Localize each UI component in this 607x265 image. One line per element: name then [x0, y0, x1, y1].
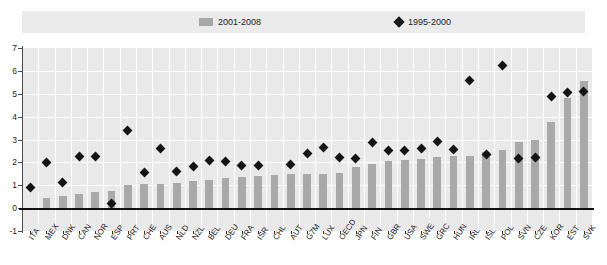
bar	[319, 174, 327, 208]
gridline-vertical	[87, 48, 88, 231]
y-axis-tick-label: 6	[0, 67, 17, 76]
gridline-vertical	[494, 48, 495, 231]
y-axis-tick	[18, 94, 22, 95]
bar	[222, 178, 230, 208]
y-axis-tick	[18, 48, 22, 49]
bar	[124, 185, 132, 208]
zero-baseline	[19, 208, 594, 210]
gridline-vertical	[413, 48, 414, 231]
y-axis-tick	[18, 185, 22, 186]
y-axis-tick	[18, 140, 22, 141]
y-axis-tick	[18, 162, 22, 163]
bar	[401, 160, 409, 208]
legend-entry-bar: 2001-2008	[199, 18, 261, 27]
bar	[499, 150, 507, 208]
gridline-vertical	[397, 48, 398, 231]
gridline-vertical	[527, 48, 528, 231]
gridline-vertical	[136, 48, 137, 231]
gridline-vertical	[103, 48, 104, 231]
y-axis-tick-label: 5	[0, 90, 17, 99]
gridline-vertical	[478, 48, 479, 231]
bar	[547, 122, 555, 208]
legend-entry-diamond: 1995-2000	[395, 18, 451, 27]
gridline-vertical	[71, 48, 72, 231]
gridline-vertical	[283, 48, 284, 231]
y-axis-tick	[18, 117, 22, 118]
bar	[75, 194, 83, 208]
gridline-vertical	[169, 48, 170, 231]
gridline-horizontal	[22, 162, 592, 163]
gridline-vertical	[348, 48, 349, 231]
bar-swatch-icon	[199, 18, 213, 26]
gridline-vertical	[380, 48, 381, 231]
gridline-horizontal	[22, 71, 592, 72]
y-axis-line	[22, 46, 23, 233]
bar	[287, 174, 295, 208]
bar	[254, 176, 262, 208]
bar	[303, 174, 311, 208]
gridline-vertical	[185, 48, 186, 231]
gridline-horizontal	[22, 117, 592, 118]
diamond-icon	[393, 16, 404, 27]
bar	[564, 98, 572, 208]
bar	[205, 180, 213, 209]
bar	[580, 81, 588, 208]
y-axis-tick-label: 7	[0, 44, 17, 53]
gridline-vertical	[152, 48, 153, 231]
y-axis-tick-label: 1	[0, 181, 17, 190]
bar	[385, 161, 393, 208]
gridline-vertical	[364, 48, 365, 231]
gridline-vertical	[266, 48, 267, 231]
bar	[515, 142, 523, 208]
gridline-vertical	[55, 48, 56, 231]
bar	[352, 167, 360, 208]
y-axis-tick	[18, 71, 22, 72]
bar	[368, 164, 376, 209]
bar-chart: 2001-2008 1995-2000 -101234567 ITAMEXDNK…	[0, 0, 607, 265]
gridline-vertical	[331, 48, 332, 231]
gridline-vertical	[511, 48, 512, 231]
bar	[157, 184, 165, 208]
bar	[466, 156, 474, 209]
bar	[43, 198, 51, 208]
bar	[482, 152, 490, 208]
gridline-vertical	[38, 48, 39, 231]
bar	[271, 175, 279, 208]
gridline-horizontal	[22, 94, 592, 95]
bar	[91, 192, 99, 208]
gridline-vertical	[445, 48, 446, 231]
bar	[189, 181, 197, 208]
bar	[173, 183, 181, 208]
y-axis-tick-label: 3	[0, 136, 17, 145]
gridline-vertical	[250, 48, 251, 231]
y-axis-tick	[18, 231, 22, 232]
gridline-vertical	[201, 48, 202, 231]
gridline-vertical	[315, 48, 316, 231]
gridline-horizontal	[22, 140, 592, 141]
bar	[336, 173, 344, 208]
gridline-vertical	[120, 48, 121, 231]
bar	[140, 184, 148, 208]
y-axis-tick-label: 2	[0, 158, 17, 167]
gridline-vertical	[429, 48, 430, 231]
y-axis-tick-label: 0	[0, 204, 17, 213]
gridline-vertical	[559, 48, 560, 231]
gridline-vertical	[217, 48, 218, 231]
bar	[417, 159, 425, 208]
bar	[450, 156, 458, 209]
gridline-vertical	[299, 48, 300, 231]
bar	[433, 157, 441, 208]
y-axis-tick-label: -1	[0, 227, 17, 236]
legend-label-1995-2000: 1995-2000	[408, 18, 451, 27]
gridline-vertical	[234, 48, 235, 231]
chart-legend: 2001-2008 1995-2000	[22, 11, 585, 33]
y-axis-tick-label: 4	[0, 113, 17, 122]
bar	[238, 177, 246, 208]
gridline-vertical	[462, 48, 463, 231]
bar	[531, 140, 539, 209]
legend-label-2001-2008: 2001-2008	[218, 18, 261, 27]
gridline-vertical	[543, 48, 544, 231]
gridline-vertical	[576, 48, 577, 231]
bar	[59, 196, 67, 209]
